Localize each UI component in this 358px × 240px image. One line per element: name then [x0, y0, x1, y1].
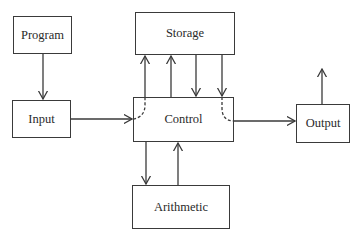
program-box: Program	[13, 16, 72, 54]
input-box: Input	[12, 100, 71, 138]
block-diagram: Program Input Storage Control Output Ari…	[0, 0, 358, 240]
output-label: Output	[306, 116, 341, 131]
storage-label: Storage	[166, 26, 204, 41]
input-label: Input	[28, 112, 54, 127]
control-box: Control	[133, 97, 234, 142]
storage-box: Storage	[135, 12, 235, 55]
arithmetic-label: Arithmetic	[154, 200, 208, 215]
output-box: Output	[296, 104, 350, 143]
arithmetic-box: Arithmetic	[132, 185, 230, 229]
program-label: Program	[21, 28, 64, 43]
control-label: Control	[164, 112, 202, 127]
